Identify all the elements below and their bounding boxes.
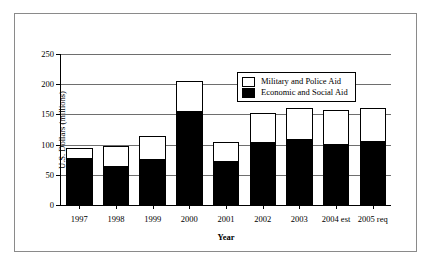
x-axis-tick [116,205,117,209]
x-axis-tick [373,205,374,209]
stacked-bar[interactable] [176,81,202,205]
bar-segment-economic-social-aid[interactable] [104,166,128,204]
x-axis-tick [153,205,154,209]
stacked-bar[interactable] [213,142,239,205]
y-axis-tick-label: 200 [41,80,54,89]
x-axis-tick [189,205,190,209]
legend-label: Economic and Social Aid [261,88,348,97]
stacked-bar[interactable] [139,136,165,205]
legend-item[interactable]: Economic and Social Aid [242,87,348,98]
x-axis-tick [336,205,337,209]
legend-label: Military and Police Aid [261,77,341,86]
x-axis-tick-label: 2001 [218,214,235,224]
stacked-bar[interactable] [323,110,349,205]
y-axis-tick-label: 0 [50,201,54,210]
bar-segment-economic-social-aid[interactable] [287,139,311,204]
stacked-bar[interactable] [286,108,312,205]
x-axis-tick [226,205,227,209]
bar-segment-economic-social-aid[interactable] [140,159,164,204]
bar-segment-economic-social-aid[interactable] [251,142,275,204]
y-axis-tick [56,205,61,206]
stacked-bar[interactable] [66,148,92,205]
x-axis-tick-label: 1998 [108,214,125,224]
bar-segment-economic-social-aid[interactable] [67,158,91,204]
bar-slot: 1998 [98,54,135,205]
bar-segment-economic-social-aid[interactable] [324,144,348,204]
x-axis-tick [263,205,264,209]
plot-area: U.S. Dollars (millions) 050100150200250 … [60,54,391,206]
stacked-bar[interactable] [360,108,386,205]
legend-swatch-empty [242,77,255,87]
x-axis-tick-label: 2000 [181,214,198,224]
bar-segment-economic-social-aid[interactable] [177,111,201,204]
chart-frame: U.S. Dollars (millions) 050100150200250 … [14,13,417,252]
stacked-bar[interactable] [103,146,129,205]
bar-segment-economic-social-aid[interactable] [214,161,238,204]
y-axis-tick-label: 150 [41,110,54,119]
y-axis-tick-label: 250 [41,50,54,59]
x-axis-tick-label: 2003 [291,214,308,224]
x-axis-tick-label: 2002 [254,214,271,224]
bar-slot: 1999 [134,54,171,205]
x-axis-title: Year [61,232,391,242]
y-axis-tick-label: 50 [46,171,55,180]
legend-swatch-filled [242,88,255,98]
y-axis-tick-label: 100 [41,140,54,149]
x-axis-tick-label: 2004 est [322,214,351,224]
x-axis-tick-label: 2005 req [358,214,388,224]
chart-legend: Military and Police AidEconomic and Soci… [237,72,356,102]
x-axis-tick-label: 1997 [71,214,88,224]
x-axis-tick [79,205,80,209]
stacked-bar[interactable] [250,113,276,205]
x-axis-tick [299,205,300,209]
bar-slot: 1997 [61,54,98,205]
bar-slot: 2005 req [354,54,391,205]
legend-item[interactable]: Military and Police Aid [242,76,348,87]
x-axis-tick-label: 1999 [144,214,161,224]
bar-segment-economic-social-aid[interactable] [361,141,385,204]
bar-slot: 2000 [171,54,208,205]
